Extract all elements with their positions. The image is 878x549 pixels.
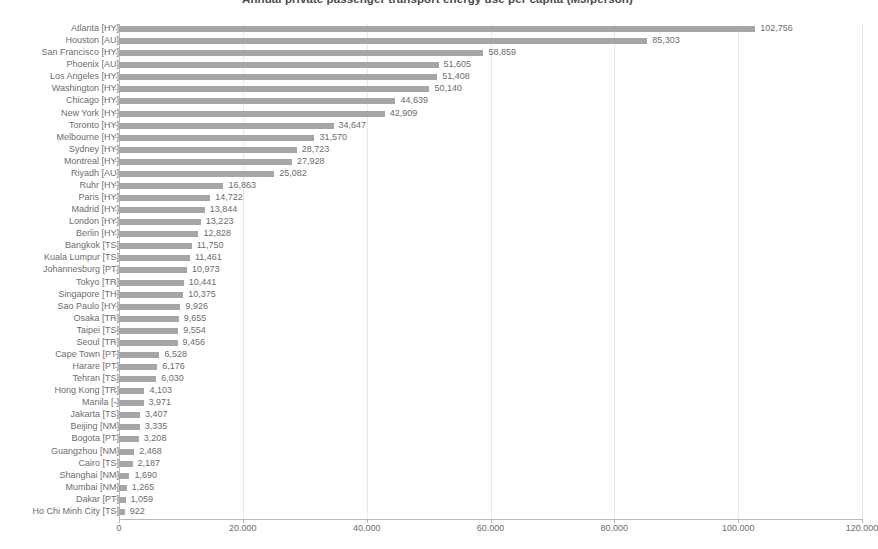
bar-row[interactable]: 1,265 [119,483,862,495]
bar-row[interactable]: 31,570 [119,133,862,145]
bar[interactable] [119,195,210,201]
bar-row[interactable]: 9,655 [119,314,862,326]
bar[interactable] [119,38,647,44]
bar-row[interactable]: 2,468 [119,447,862,459]
bar-row[interactable]: 28,723 [119,145,862,157]
bar[interactable] [119,86,429,92]
bar-value-label: 4,103 [149,385,172,396]
category-label: Hong Kong [TR] [4,385,119,396]
bar-row[interactable]: 3,335 [119,422,862,434]
bar[interactable] [119,171,274,177]
bar[interactable] [119,400,144,406]
bar-row[interactable]: 922 [119,507,862,519]
bar[interactable] [119,207,205,213]
bar-row[interactable]: 2,187 [119,459,862,471]
bar[interactable] [119,497,126,503]
bar[interactable] [119,183,223,189]
category-label: Paris [HY] [4,192,119,203]
bar-value-label: 6,176 [162,361,185,372]
bar-value-label: 14,722 [215,192,243,203]
bar-row[interactable]: 3,971 [119,398,862,410]
bar[interactable] [119,424,140,430]
bar[interactable] [119,123,334,129]
bar[interactable] [119,485,127,491]
bar-row[interactable]: 9,456 [119,338,862,350]
bar-row[interactable]: 12,828 [119,229,862,241]
bar[interactable] [119,412,140,418]
bar[interactable] [119,147,297,153]
bar-row[interactable]: 10,375 [119,290,862,302]
bar[interactable] [119,62,439,68]
bar-value-label: 50,140 [434,83,462,94]
bar-row[interactable]: 42,909 [119,109,862,121]
bar-row[interactable]: 11,461 [119,253,862,265]
y-tick-mark [115,246,118,247]
bar-row[interactable]: 58,859 [119,48,862,60]
bar-value-label: 9,655 [184,313,207,324]
bar-row[interactable]: 1,690 [119,471,862,483]
bar[interactable] [119,231,198,237]
y-tick-mark [115,185,118,186]
bar-row[interactable]: 6,176 [119,362,862,374]
bar-row[interactable]: 51,605 [119,60,862,72]
y-tick-mark [115,234,118,235]
bar-value-label: 9,554 [183,325,206,336]
bar[interactable] [119,50,483,56]
bar[interactable] [119,340,178,346]
bar-value-label: 2,468 [139,446,162,457]
bar[interactable] [119,449,134,455]
category-label: Singapore [TH] [4,289,119,300]
bar[interactable] [119,267,187,273]
bar[interactable] [119,98,395,104]
bar[interactable] [119,111,385,117]
bar-row[interactable]: 3,208 [119,434,862,446]
bar-row[interactable]: 27,928 [119,157,862,169]
bar[interactable] [119,280,184,286]
bar[interactable] [119,159,292,165]
bar[interactable] [119,304,180,310]
y-tick-mark [115,222,118,223]
bar-row[interactable]: 50,140 [119,84,862,96]
bar[interactable] [119,243,192,249]
y-tick-mark [115,391,118,392]
bar[interactable] [119,26,755,32]
bar[interactable] [119,219,201,225]
bar-row[interactable]: 102,756 [119,24,862,36]
bar[interactable] [119,292,183,298]
bar-row[interactable]: 6,528 [119,350,862,362]
bar-row[interactable]: 9,926 [119,302,862,314]
bar-row[interactable]: 34,647 [119,121,862,133]
bar-row[interactable]: 9,554 [119,326,862,338]
bar-row[interactable]: 51,408 [119,72,862,84]
bar-row[interactable]: 10,441 [119,278,862,290]
bar[interactable] [119,473,129,479]
bar-row[interactable]: 10,973 [119,265,862,277]
x-tick-label: 40.000 [353,523,381,533]
bar-row[interactable]: 4,103 [119,386,862,398]
bar-row[interactable]: 11,750 [119,241,862,253]
bar[interactable] [119,328,178,334]
y-tick-mark [115,258,118,259]
bar[interactable] [119,461,133,467]
bar-value-label: 1,690 [134,470,157,481]
x-tick-label: 0 [116,523,121,533]
category-label: Mumbai [NM] [4,482,119,493]
bar[interactable] [119,388,144,394]
bar[interactable] [119,364,157,370]
bar[interactable] [119,436,139,442]
bar-row[interactable]: 1,059 [119,495,862,507]
y-axis-row: Ho Chi Minh City [TS] [0,507,119,519]
bar[interactable] [119,509,125,515]
y-tick-mark [115,41,118,42]
bar[interactable] [119,316,179,322]
bar-row[interactable]: 6,030 [119,374,862,386]
bar-row[interactable]: 44,639 [119,96,862,108]
y-tick-mark [115,487,118,488]
bar-row[interactable]: 3,407 [119,410,862,422]
bar[interactable] [119,376,156,382]
bar[interactable] [119,352,159,358]
bar[interactable] [119,255,190,261]
bar[interactable] [119,135,314,141]
bar-value-label: 13,844 [210,204,238,215]
bar[interactable] [119,74,437,80]
